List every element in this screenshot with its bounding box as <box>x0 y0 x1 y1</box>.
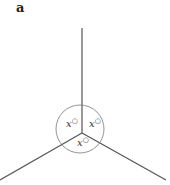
lower-left-ray <box>0 133 82 180</box>
angle-label-left: x○ <box>66 117 78 129</box>
angle-label-bottom: x○ <box>77 136 89 148</box>
lower-right-ray <box>82 133 166 180</box>
angle-diagram: x○ x○ x○ <box>0 0 170 185</box>
angle-label-right: x○ <box>89 117 101 129</box>
